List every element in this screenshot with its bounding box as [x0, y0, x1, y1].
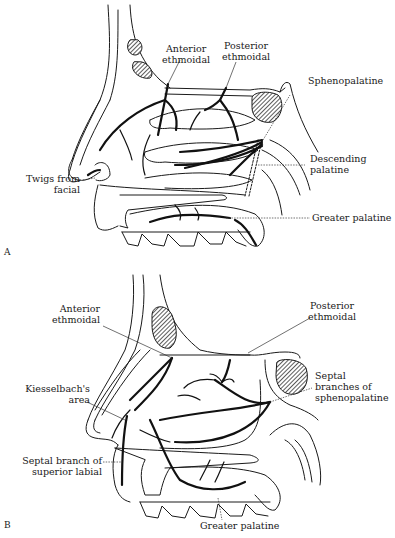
label-septal-branches-sphenopalatine-b: Septal branches of sphenopalatine [315, 370, 389, 403]
label-posterior-ethmoidal-a: Posterior ethmoidal [222, 40, 270, 62]
label-anterior-ethmoidal-b: Anterior ethmoidal [40, 303, 100, 325]
label-sphenopalatine-a: Sphenopalatine [308, 75, 383, 86]
label-anterior-ethmoidal-a: Anterior ethmoidal [162, 43, 210, 65]
label-twigs-from-facial-a: Twigs from facial [10, 173, 80, 195]
panel-a-lateral-wall: Anterior ethmoidal Posterior ethmoidal S… [0, 0, 395, 270]
panel-letter-b: B [4, 520, 11, 530]
label-posterior-ethmoidal-b: Posterior ethmoidal [308, 300, 356, 322]
label-greater-palatine-a: Greater palatine [312, 212, 391, 223]
label-kiesselbachs-area-b: Kiesselbach's area [12, 383, 90, 405]
panel-b-septum: Anterior ethmoidal Posterior ethmoidal K… [0, 270, 395, 538]
label-greater-palatine-b: Greater palatine [200, 520, 279, 531]
panel-letter-a: A [4, 247, 11, 257]
label-septal-branch-superior-labial-b: Septal branch of superior labial [14, 455, 102, 477]
label-descending-palatine-a: Descending palatine [310, 153, 367, 175]
lateral-wall-illustration [0, 0, 395, 270]
